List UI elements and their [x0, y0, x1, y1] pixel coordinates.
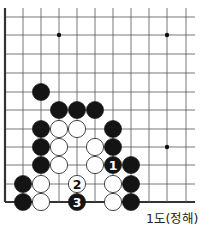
black-stone: [32, 83, 49, 100]
black-stone-move-1: 1: [104, 156, 121, 173]
black-stone: [14, 175, 31, 192]
black-stone: [14, 193, 31, 210]
white-stone: [104, 175, 121, 192]
move-number-label: 1: [109, 158, 118, 173]
black-stone: [104, 138, 121, 155]
black-stone: [50, 101, 67, 118]
white-stone: [32, 193, 49, 210]
black-stone: [32, 156, 49, 173]
black-stone: [68, 101, 85, 118]
black-stone: [86, 101, 103, 118]
diagram-caption: 1도(정해): [140, 208, 198, 227]
white-stone: [104, 193, 121, 210]
black-stone: [122, 175, 139, 192]
black-stone-move-3: 3: [68, 193, 85, 210]
go-board: 123: [0, 0, 201, 228]
white-stone-move-2: 2: [68, 175, 85, 192]
black-stone: [122, 156, 139, 173]
move-number-label: 3: [73, 195, 82, 210]
star-point-icon: [165, 33, 169, 37]
black-stone: [32, 138, 49, 155]
black-stone: [32, 120, 49, 137]
black-stone: [122, 193, 139, 210]
white-stone: [50, 156, 67, 173]
white-stone: [86, 156, 103, 173]
star-point-icon: [165, 145, 169, 149]
white-stone: [50, 120, 67, 137]
white-stone: [50, 138, 67, 155]
move-number-label: 2: [73, 177, 82, 192]
white-stone: [86, 138, 103, 155]
white-stone: [32, 175, 49, 192]
white-stone: [68, 120, 85, 137]
black-stone: [104, 120, 121, 137]
star-point-icon: [57, 33, 61, 37]
